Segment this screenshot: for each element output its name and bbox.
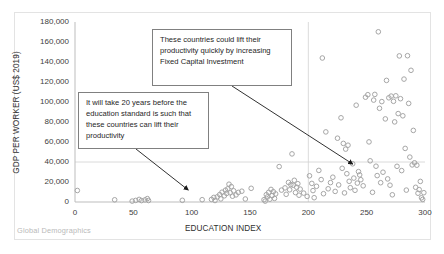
scatter-point <box>243 197 248 202</box>
y-tick-label: 40,000 <box>25 157 69 166</box>
scatter-point <box>390 193 395 198</box>
y-tick-label: 80,000 <box>25 117 69 126</box>
y-tick-label: 140,000 <box>25 57 69 66</box>
scatter-point <box>317 168 322 173</box>
y-tick-label: 60,000 <box>25 137 69 146</box>
scatter-point <box>370 190 375 195</box>
scatter-point <box>331 175 336 180</box>
scatter-point <box>388 183 393 188</box>
scatter-point <box>297 193 302 198</box>
scatter-point <box>335 136 340 141</box>
scatter-point <box>402 77 407 82</box>
scatter-point <box>342 191 347 196</box>
scatter-point <box>380 99 385 104</box>
scatter-point <box>340 166 345 171</box>
y-tick-label: 20,000 <box>25 177 69 186</box>
x-tick-label: 200 <box>288 208 328 217</box>
scatter-point <box>284 192 289 197</box>
scatter-point <box>376 30 381 35</box>
scatter-point <box>384 78 389 83</box>
x-tick-label: 0 <box>55 208 95 217</box>
scatter-point <box>326 187 331 192</box>
scatter-point <box>403 146 408 151</box>
scatter-point <box>321 191 326 196</box>
y-tick-label: 160,000 <box>25 37 69 46</box>
scatter-point <box>328 180 333 185</box>
scatter-point <box>200 197 205 202</box>
scatter-point <box>75 188 80 193</box>
annotation-callout-education-standard: It will take 20 years before the educati… <box>78 92 209 149</box>
scatter-point <box>311 188 316 193</box>
scatter-point <box>320 56 325 61</box>
watermark-label: Global Demographics <box>17 226 91 235</box>
scatter-point <box>409 68 414 73</box>
scatter-point <box>373 92 378 97</box>
x-tick-label: 50 <box>113 208 153 217</box>
x-axis-title: EDUCATION INDEX <box>185 224 261 233</box>
scatter-point <box>361 184 366 189</box>
scatter-point <box>399 168 404 173</box>
scatter-point <box>287 188 292 193</box>
x-tick-label: 250 <box>347 208 387 217</box>
scatter-point <box>324 130 329 135</box>
y-tick-label: 120,000 <box>25 77 69 86</box>
y-tick-label: 180,000 <box>25 17 69 26</box>
scatter-point <box>383 117 388 122</box>
x-tick-label: 100 <box>172 208 212 217</box>
scatter-point <box>319 177 324 182</box>
y-tick-label: 0 <box>25 197 69 206</box>
scatter-point <box>312 195 317 200</box>
scatter-point <box>374 164 379 169</box>
scatter-point <box>398 96 403 101</box>
scatter-point <box>371 98 376 103</box>
scatter-point <box>391 99 396 104</box>
scatter-point <box>249 186 254 191</box>
scatter-point <box>397 54 402 59</box>
scatter-point <box>359 177 364 182</box>
scatter-point <box>305 194 310 199</box>
scatter-point <box>404 188 409 193</box>
scatter-point <box>290 152 295 157</box>
scatter-point <box>310 181 315 186</box>
scatter-point <box>422 190 427 195</box>
scatter-point <box>345 171 350 176</box>
scatter-point <box>307 174 312 179</box>
scatter-point <box>352 176 357 181</box>
scatter-point <box>377 106 382 111</box>
scatter-point <box>333 189 338 194</box>
scatter-point <box>396 111 401 116</box>
scatter-point <box>112 198 117 203</box>
scatter-point <box>336 183 341 188</box>
scatter-point <box>341 141 346 146</box>
scatter-point <box>408 155 413 160</box>
scatter-point <box>411 128 416 133</box>
annotation-arrow-education <box>136 149 188 190</box>
scatter-point <box>375 173 380 178</box>
y-tick-label: 100,000 <box>25 97 69 106</box>
scatter-point <box>406 101 411 106</box>
scatter-point <box>385 177 390 182</box>
scatter-point <box>346 143 351 148</box>
scatter-point <box>394 94 399 99</box>
scatter-point <box>283 186 288 191</box>
scatter-point <box>392 120 397 125</box>
scatter-point <box>277 164 282 169</box>
scatter-point <box>314 184 319 189</box>
scatter-point <box>347 179 352 184</box>
chart-container: GDP PER WORKER (US$ 2019) EDUCATION INDE… <box>0 0 444 254</box>
scatter-point <box>405 53 410 58</box>
x-tick-label: 150 <box>230 208 270 217</box>
scatter-point <box>339 116 344 121</box>
scatter-point <box>368 159 373 164</box>
scatter-point <box>367 140 372 145</box>
scatter-point <box>354 103 359 108</box>
scatter-point <box>381 170 386 175</box>
annotation-callout-fixed-capital: These countries could lift their product… <box>152 29 292 86</box>
annotation-arrow-fixed-capital <box>232 86 353 164</box>
scatter-point <box>353 188 358 193</box>
scatter-point <box>395 164 400 169</box>
scatter-point <box>401 114 406 119</box>
scatter-point <box>378 180 383 185</box>
scatter-point <box>348 185 353 190</box>
y-axis-title: GDP PER WORKER (US$ 2019) <box>12 38 21 188</box>
